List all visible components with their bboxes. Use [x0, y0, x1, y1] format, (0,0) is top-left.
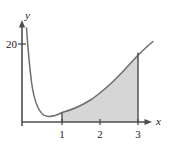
x-tick-label-2: 2	[97, 128, 103, 140]
x-tick-label-1: 1	[59, 128, 65, 140]
y-axis-arrow-icon	[19, 20, 25, 28]
figure-container: 20 1 2 3 y x	[0, 0, 170, 149]
x-axis-arrow-icon	[145, 119, 153, 125]
shaded-area-region	[62, 53, 138, 123]
y-axis-label: y	[24, 9, 30, 21]
x-axis-label: x	[155, 115, 161, 127]
x-tick-label-3: 3	[135, 128, 141, 140]
y-tick-label-20: 20	[6, 38, 18, 50]
graph-canvas: 20 1 2 3 y x	[0, 0, 170, 149]
